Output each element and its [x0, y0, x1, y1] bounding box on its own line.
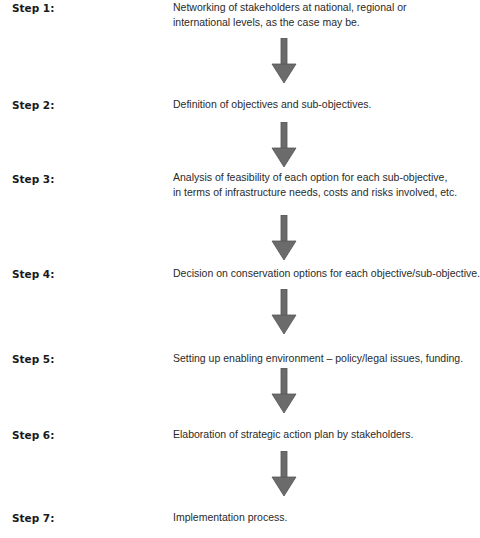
step-4-text: Decision on conservation options for eac…	[173, 266, 480, 281]
down-arrow-icon	[270, 215, 298, 261]
step-7-text: Implementation process.	[173, 510, 287, 525]
step-1-line-2: international levels, as the case may be…	[173, 15, 406, 30]
down-arrow-icon	[270, 368, 298, 414]
step-3-label: Step 3:	[12, 173, 54, 185]
step-2-text: Definition of objectives and sub-objecti…	[173, 97, 371, 112]
down-arrow-icon	[270, 122, 298, 168]
step-2-label: Step 2:	[12, 99, 54, 111]
step-5-label: Step 5:	[12, 353, 54, 365]
step-6-label: Step 6:	[12, 429, 54, 441]
step-1-text: Networking of stakeholders at national, …	[173, 0, 406, 30]
step-1-line-1: Networking of stakeholders at national, …	[173, 0, 406, 15]
step-3-text: Analysis of feasibility of each option f…	[173, 170, 457, 200]
step-3-line-1: Analysis of feasibility of each option f…	[173, 170, 457, 185]
step-7-line-1: Implementation process.	[173, 510, 287, 525]
step-5-line-1: Setting up enabling environment – policy…	[173, 351, 463, 366]
step-3-line-2: in terms of infrastructure needs, costs …	[173, 185, 457, 200]
down-arrow-icon	[270, 451, 298, 497]
step-7-label: Step 7:	[12, 512, 54, 524]
step-4-label: Step 4:	[12, 268, 54, 280]
step-1-label: Step 1:	[12, 2, 54, 14]
down-arrow-icon	[270, 289, 298, 335]
step-2-line-1: Definition of objectives and sub-objecti…	[173, 97, 371, 112]
step-6-line-1: Elaboration of strategic action plan by …	[173, 427, 413, 442]
step-6-text: Elaboration of strategic action plan by …	[173, 427, 413, 442]
down-arrow-icon	[270, 38, 298, 84]
step-5-text: Setting up enabling environment – policy…	[173, 351, 463, 366]
step-4-line-1: Decision on conservation options for eac…	[173, 266, 480, 281]
